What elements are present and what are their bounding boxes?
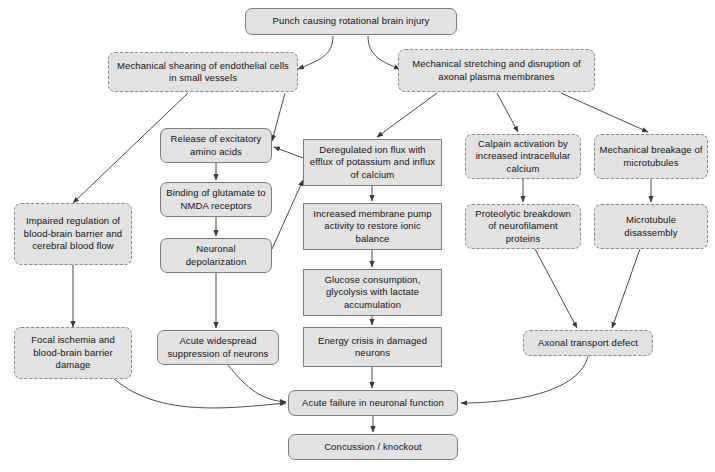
node-focal[interactable]: Focal ischemia and blood-brain barrier d… bbox=[14, 327, 132, 379]
node-excitatory[interactable]: Release of excitatory amino acids bbox=[160, 128, 272, 163]
node-label-pump: Increased membrane pump activity to rest… bbox=[308, 208, 437, 246]
node-label-energy: Energy crisis in damaged neurons bbox=[308, 335, 437, 360]
node-label-disassembly: Microtubule disassembly bbox=[599, 214, 703, 239]
node-breakage[interactable]: Mechanical breakage of microtubules bbox=[594, 134, 708, 179]
edge-punch-to-stretching bbox=[368, 36, 400, 69]
edge-stretching-to-calpain bbox=[497, 93, 518, 132]
edge-stretching-to-breakage bbox=[561, 93, 648, 132]
node-suppression[interactable]: Acute widespread suppression of neurons bbox=[157, 330, 279, 365]
node-label-focal: Focal ischemia and blood-brain barrier d… bbox=[19, 334, 127, 372]
node-label-stretching: Mechanical stretching and disruption of … bbox=[403, 58, 590, 83]
node-label-suppression: Acute widespread suppression of neurons bbox=[162, 335, 274, 360]
node-pump[interactable]: Increased membrane pump activity to rest… bbox=[303, 203, 442, 250]
node-glucose[interactable]: Glucose consumption, glycolysis with lac… bbox=[303, 269, 442, 316]
node-label-impaired: Impaired regulation of blood-brain barri… bbox=[19, 215, 127, 253]
edge-disassembly-to-transport bbox=[612, 249, 640, 328]
node-depolarization[interactable]: Neuronal depolarization bbox=[160, 238, 272, 273]
node-calpain[interactable]: Calpain activation by increased intracel… bbox=[465, 134, 581, 179]
node-transport[interactable]: Axonal transport defect bbox=[523, 330, 653, 356]
node-label-glutamate: Binding of glutamate to NMDA receptors bbox=[165, 187, 267, 212]
node-glutamate[interactable]: Binding of glutamate to NMDA receptors bbox=[160, 182, 272, 217]
node-label-proteolytic: Proteolytic breakdown of neurofilament p… bbox=[470, 208, 576, 246]
edge-transport-to-failure bbox=[461, 356, 588, 403]
node-label-ionflux: Deregulated ion flux with efflux of pota… bbox=[308, 144, 437, 182]
node-label-calpain: Calpain activation by increased intracel… bbox=[470, 138, 576, 176]
node-label-shearing: Mechanical shearing of endothelial cells… bbox=[113, 60, 293, 85]
node-label-glucose: Glucose consumption, glycolysis with lac… bbox=[308, 274, 437, 312]
edge-punch-to-shearing bbox=[298, 36, 333, 69]
edge-ionflux-to-excitatory bbox=[274, 147, 303, 158]
edge-shearing-to-excitatory bbox=[272, 93, 285, 141]
node-label-breakage: Mechanical breakage of microtubules bbox=[599, 144, 703, 169]
node-shearing[interactable]: Mechanical shearing of endothelial cells… bbox=[108, 52, 298, 92]
edge-suppression-to-failure bbox=[228, 365, 286, 402]
node-ionflux[interactable]: Deregulated ion flux with efflux of pota… bbox=[303, 139, 442, 186]
node-label-concussion: Concussion / knockout bbox=[293, 441, 453, 454]
node-label-punch: Punch causing rotational brain injury bbox=[250, 15, 452, 28]
flowchart-canvas: Punch causing rotational brain injuryMec… bbox=[0, 0, 715, 472]
edge-depolarization-to-ionflux bbox=[272, 180, 303, 249]
node-disassembly[interactable]: Microtubule disassembly bbox=[594, 204, 708, 249]
edge-proteolytic-to-transport bbox=[535, 249, 577, 328]
node-energy[interactable]: Energy crisis in damaged neurons bbox=[303, 327, 442, 367]
node-proteolytic[interactable]: Proteolytic breakdown of neurofilament p… bbox=[465, 204, 581, 249]
node-concussion[interactable]: Concussion / knockout bbox=[288, 434, 458, 460]
node-label-depolarization: Neuronal depolarization bbox=[165, 243, 267, 268]
edge-focal-to-failure bbox=[105, 370, 286, 408]
node-stretching[interactable]: Mechanical stretching and disruption of … bbox=[398, 49, 595, 92]
node-label-transport: Axonal transport defect bbox=[528, 337, 648, 350]
node-label-failure: Acute failure in neuronal function bbox=[293, 397, 453, 410]
node-failure[interactable]: Acute failure in neuronal function bbox=[288, 390, 458, 416]
edge-stretching-to-ionflux bbox=[377, 93, 437, 137]
node-punch[interactable]: Punch causing rotational brain injury bbox=[245, 8, 457, 35]
node-impaired[interactable]: Impaired regulation of blood-brain barri… bbox=[14, 203, 132, 265]
node-label-excitatory: Release of excitatory amino acids bbox=[165, 133, 267, 158]
